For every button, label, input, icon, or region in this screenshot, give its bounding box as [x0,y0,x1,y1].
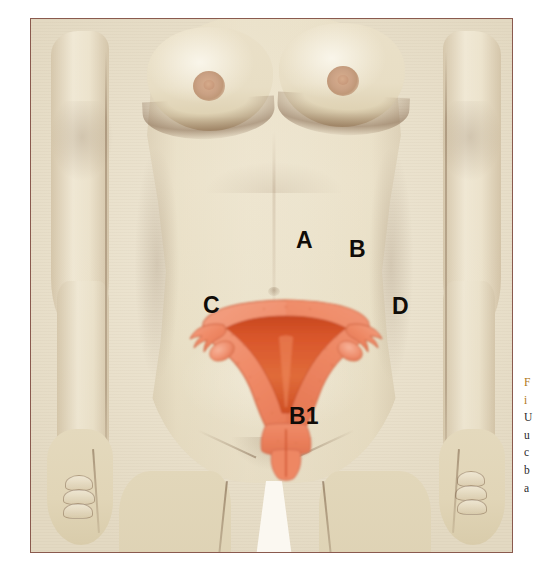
nipple-right [338,75,349,85]
caption-line-5: c [524,444,534,462]
arm-left [43,31,135,531]
label-b1: B1 [289,405,319,428]
clipped-caption-text: F i U u c b a [524,374,534,542]
uterus-illustration [186,295,386,485]
caption-line-4: u [524,427,534,445]
caption-line-3: U [524,409,534,427]
label-c: C [203,294,220,317]
cervical-canal [285,429,287,477]
areola-right [327,66,359,96]
caption-line-7: a [524,480,534,498]
arm-right-inner-contour [445,51,447,471]
caption-line-6: b [524,462,534,480]
hand-right-finger-3 [457,499,487,515]
caption-line-2: i [524,392,534,410]
illustration-canvas: A B C D B1 [31,19,512,552]
arm-right [415,31,507,531]
caption-line-1: F [524,374,534,392]
label-b: B [349,238,366,261]
areola-left [193,71,225,101]
nipple-left [204,80,215,90]
label-d: D [392,295,409,318]
hand-left-finger-3 [63,503,93,519]
label-a: A [296,229,313,252]
illustration-frame: A B C D B1 [30,18,513,553]
arm-left-inner-contour [105,51,107,471]
uterus-body-group [190,300,382,480]
